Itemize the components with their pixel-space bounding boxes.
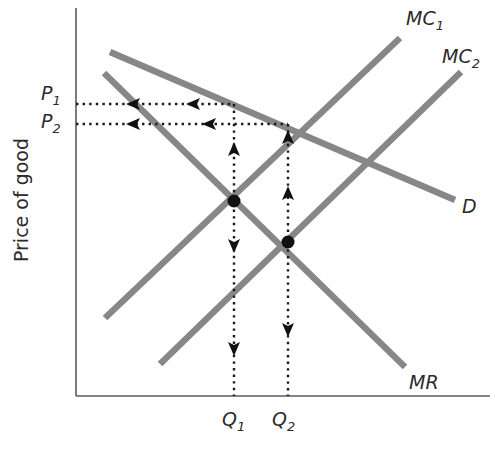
q1-tick-label-main: Q: [222, 408, 237, 430]
diagram-canvas: MC1 MC2 D MR P1 P2 Q1 Q2: [0, 0, 492, 454]
curve-labels-group: MC1 MC2 D MR: [406, 7, 480, 393]
demand-label: D: [462, 195, 477, 217]
equilibrium-dot-mc2: [282, 236, 295, 249]
marginal-revenue-label: MR: [409, 371, 439, 393]
curves-group: [104, 38, 461, 367]
p1-tick-label-sub: 1: [52, 93, 60, 108]
price-tick-labels-group: P1 P2: [41, 82, 61, 136]
quantity-tick-labels-group: Q1 Q2: [222, 408, 295, 434]
equilibrium-dot-mc1: [228, 195, 241, 208]
q2-tick-label: Q2: [272, 408, 295, 434]
p2-guide-arrow-left-icon: [126, 118, 140, 130]
p2-tick-label-main: P: [41, 110, 53, 132]
p1-guide-arrow-mid-icon: [186, 98, 200, 110]
q1-guide-arrow-down-lower-icon: [228, 342, 240, 356]
mc1-label: MC1: [406, 7, 444, 33]
mc1-label-main: MC: [406, 7, 436, 29]
mc2-label: MC2: [442, 45, 480, 71]
marginal-cost-2-curve: [160, 72, 461, 364]
q1-guide-arrow-up-icon: [228, 142, 240, 156]
mc2-label-sub: 2: [472, 56, 480, 71]
p1-tick-label: P1: [41, 82, 61, 108]
economics-diagram: MC1 MC2 D MR P1 P2 Q1 Q2: [0, 0, 492, 454]
q1-tick-label-sub: 1: [237, 419, 245, 434]
p2-tick-label: P2: [41, 110, 61, 136]
p2-guide-arrow-mid-icon: [202, 118, 216, 130]
p2-tick-label-sub: 2: [52, 121, 60, 136]
q1-tick-label: Q1: [222, 408, 245, 434]
y-axis-title: Price of good: [10, 138, 32, 262]
q2-tick-label-main: Q: [272, 408, 287, 430]
q1-guide-arrow-down-upper-icon: [228, 239, 240, 253]
mc2-label-main: MC: [442, 45, 472, 67]
q2-guide-arrow-down-icon: [282, 323, 294, 337]
p1-tick-label-main: P: [41, 82, 53, 104]
q2-tick-label-sub: 2: [287, 419, 295, 434]
mc1-label-sub: 1: [436, 18, 444, 33]
